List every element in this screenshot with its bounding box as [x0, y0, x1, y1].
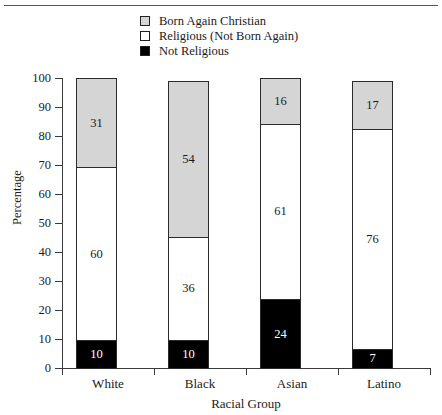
bar-segment-white-born-again[interactable]: 31: [76, 78, 117, 168]
y-tick-label-0: 0: [1, 362, 51, 374]
bar-asian[interactable]: 16 61 24: [260, 78, 301, 368]
bar-segment-asian-religious[interactable]: 61: [260, 124, 301, 301]
bar-segment-latino-religious[interactable]: 76: [352, 129, 393, 349]
bar-black[interactable]: 54 36 10: [168, 81, 209, 368]
bar-value-white-born-again: 31: [90, 117, 103, 130]
y-tick-label-20: 20: [1, 304, 51, 316]
bar-value-black-religious: 36: [182, 282, 195, 295]
bar-value-black-born-again: 54: [182, 153, 195, 166]
x-tick-mark-0: [62, 368, 63, 375]
bar-latino[interactable]: 17 76 7: [352, 81, 393, 368]
bar-segment-black-born-again[interactable]: 54: [168, 81, 209, 238]
bar-segment-asian-not-religious[interactable]: 24: [260, 299, 301, 369]
bar-value-asian-born-again: 16: [274, 95, 287, 108]
bar-segment-latino-born-again[interactable]: 17: [352, 81, 393, 130]
y-tick-mark-90: [55, 107, 62, 108]
y-tick-mark-30: [55, 281, 62, 282]
bar-segment-white-religious[interactable]: 60: [76, 167, 117, 341]
bar-value-white-not-religious: 10: [90, 348, 103, 361]
bar-value-black-not-religious: 10: [182, 348, 195, 361]
y-tick-mark-60: [55, 194, 62, 195]
stacked-bar-chart: Percentage 100 90 80 70 60 50 40 30 20 1…: [0, 0, 442, 415]
y-axis-tick-labels: 100 90 80 70 60 50 40 30 20 10 0: [0, 0, 51, 415]
bar-value-latino-born-again: 17: [366, 99, 379, 112]
y-tick-label-30: 30: [1, 275, 51, 287]
bar-value-asian-religious: 61: [274, 205, 287, 218]
x-tick-mark-4: [430, 368, 431, 375]
y-tick-label-10: 10: [1, 333, 51, 345]
y-tick-mark-50: [55, 223, 62, 224]
x-tick-mark-3: [338, 368, 339, 375]
y-tick-mark-0: [55, 368, 62, 369]
y-tick-label-40: 40: [1, 246, 51, 258]
y-tick-mark-20: [55, 310, 62, 311]
y-tick-mark-100: [55, 78, 62, 79]
x-axis-title: Racial Group: [62, 396, 430, 412]
y-tick-mark-80: [55, 136, 62, 137]
x-tick-mark-2: [246, 368, 247, 375]
y-tick-label-70: 70: [1, 159, 51, 171]
bar-segment-latino-not-religious[interactable]: 7: [352, 349, 393, 369]
y-tick-mark-40: [55, 252, 62, 253]
bar-segment-white-not-religious[interactable]: 10: [76, 340, 117, 369]
bar-value-white-religious: 60: [90, 248, 103, 261]
bar-white[interactable]: 31 60 10: [76, 78, 117, 368]
bar-value-asian-not-religious: 24: [274, 328, 287, 341]
bar-value-latino-religious: 76: [366, 233, 379, 246]
y-tick-label-90: 90: [1, 101, 51, 113]
x-category-label-latino: Latino: [324, 376, 442, 391]
x-tick-mark-1: [154, 368, 155, 375]
y-tick-label-80: 80: [1, 130, 51, 142]
bar-segment-black-religious[interactable]: 36: [168, 237, 209, 341]
bar-segment-black-not-religious[interactable]: 10: [168, 340, 209, 369]
bar-segment-asian-born-again[interactable]: 16: [260, 78, 301, 124]
bar-value-latino-not-religious: 7: [369, 352, 375, 365]
y-tick-label-100: 100: [1, 72, 51, 84]
y-tick-label-60: 60: [1, 188, 51, 200]
plot-area: 31 60 10 54 36 10 16: [62, 78, 430, 368]
y-tick-mark-10: [55, 339, 62, 340]
y-tick-mark-70: [55, 165, 62, 166]
y-tick-label-50: 50: [1, 217, 51, 229]
